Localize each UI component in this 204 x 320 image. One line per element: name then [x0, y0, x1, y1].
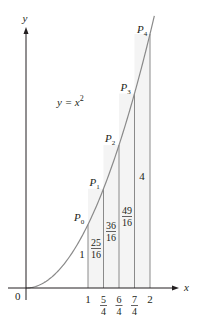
strip-fill	[135, 34, 151, 288]
parabola-diagram: x y 0 y = x2 15464742 P0P1P2P3P4 1251636…	[0, 0, 204, 320]
x-tick-numerator: 7	[132, 294, 137, 305]
x-tick-numerator: 5	[101, 294, 106, 305]
point-label-subscript: 3	[127, 88, 131, 96]
height-label: 4	[139, 170, 145, 182]
x-tick-denominator: 4	[117, 306, 122, 317]
point-label-subscript: 1	[96, 183, 100, 191]
x-tick-label: 2	[147, 293, 153, 305]
x-tick-label: 1	[85, 293, 91, 305]
point-label: P1	[89, 176, 101, 191]
height-numerator: 36	[106, 220, 116, 231]
curve-equation-label: y = x2	[56, 94, 84, 108]
height-denominator: 16	[106, 232, 116, 243]
point-label-subscript: 0	[81, 218, 85, 226]
height-label: 1	[79, 248, 85, 260]
point-label: P2	[104, 132, 116, 147]
x-axis-arrow-icon	[172, 286, 179, 291]
point-label-subscript: 4	[144, 30, 148, 38]
x-tick-numerator: 6	[117, 294, 122, 305]
origin-label: 0	[15, 290, 21, 302]
x-tick-denominator: 4	[132, 306, 137, 317]
y-axis-arrow-icon	[24, 27, 29, 34]
point-label: P0	[73, 211, 85, 226]
strip-fill	[119, 94, 135, 288]
x-tick-labels: 15464742	[85, 293, 153, 317]
curve-equation-exponent: 2	[80, 94, 84, 103]
height-denominator: 16	[122, 217, 132, 228]
y-axis-label: y	[22, 12, 28, 24]
point-label-subscript: 2	[112, 139, 116, 147]
x-axis-label: x	[183, 281, 189, 293]
curve-equation-text: y = x	[56, 96, 80, 108]
height-denominator: 16	[91, 249, 101, 260]
x-tick-denominator: 4	[101, 306, 106, 317]
point-label: P3	[120, 81, 132, 96]
height-numerator: 25	[91, 237, 101, 248]
height-numerator: 49	[122, 205, 132, 216]
